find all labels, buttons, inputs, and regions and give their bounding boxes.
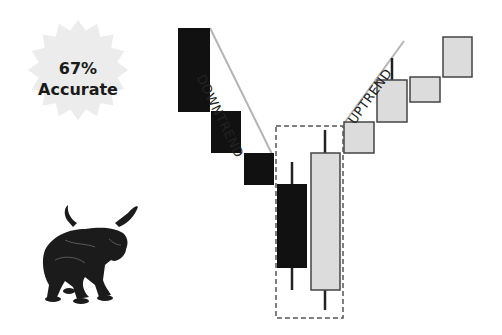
bull-icon [25, 205, 145, 310]
chart-stage: 67% Accurate DOWNTREND UPTREND [0, 0, 502, 335]
candles [178, 28, 472, 310]
bearish-candle [277, 184, 307, 268]
bullish-candle [443, 37, 472, 77]
bullish-candle [410, 77, 440, 102]
bullish-candle [311, 153, 340, 290]
bearish-candle [244, 153, 274, 185]
bullish-candle [344, 122, 374, 153]
